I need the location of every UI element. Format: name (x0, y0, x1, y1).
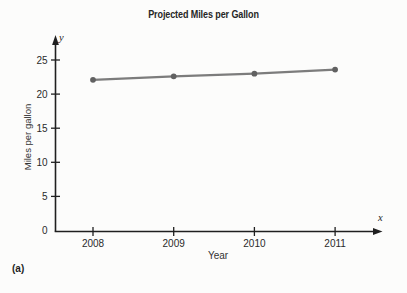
x-tick-label: 2011 (324, 238, 346, 249)
x-axis-symbol: x (378, 212, 383, 223)
y-axis-symbol: y (59, 32, 64, 43)
data-point (252, 71, 258, 77)
x-tick-label: 2009 (163, 238, 186, 249)
x-tick-label: 2010 (243, 238, 266, 249)
x-tick-label: 2008 (82, 238, 105, 249)
plot-canvas: 05101520252008200920102011 (0, 0, 407, 293)
y-axis-arrowhead (52, 35, 59, 45)
y-tick-label: 15 (36, 123, 48, 134)
x-axis-arrowhead (373, 228, 383, 235)
figure-part-label: (a) (12, 263, 24, 274)
y-tick-label: 25 (36, 55, 48, 66)
y-tick-label: 5 (42, 191, 48, 202)
x-axis-label: Year (208, 250, 228, 261)
data-line (93, 70, 335, 80)
data-point (171, 73, 177, 79)
y-tick-label: 10 (36, 157, 48, 168)
y-axis-label: Miles per gallon (22, 104, 33, 171)
y-tick-label: 20 (36, 89, 48, 100)
data-point (332, 67, 338, 73)
y-tick-label: 0 (42, 225, 48, 236)
data-point (90, 77, 96, 83)
chart-figure: Projected Miles per Gallon 0510152025200… (0, 0, 407, 293)
